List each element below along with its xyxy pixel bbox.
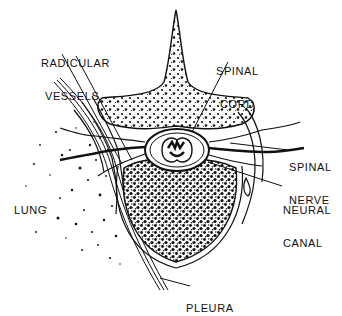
- label-canal-line1: NEURAL: [283, 205, 331, 216]
- label-pleura: PLEURA: [186, 281, 234, 316]
- label-lung: LUNG: [14, 183, 47, 227]
- label-cord-line1: SPINAL: [216, 66, 259, 77]
- label-radicular-line2: VESSELS: [45, 91, 110, 102]
- label-cord-line2: CORD: [216, 99, 259, 110]
- label-nerve-line1: SPINAL: [289, 162, 332, 173]
- label-canal-line2: CANAL: [283, 238, 331, 249]
- label-lung-text: LUNG: [14, 205, 47, 216]
- label-radicular-vessels: RADICULAR VESSELS: [41, 36, 110, 113]
- label-pleura-text: PLEURA: [186, 303, 234, 314]
- label-neural-canal: NEURAL CANAL: [283, 183, 331, 260]
- label-radicular-line1: RADICULAR: [41, 58, 110, 69]
- label-spinal-cord: SPINAL CORD: [216, 44, 259, 121]
